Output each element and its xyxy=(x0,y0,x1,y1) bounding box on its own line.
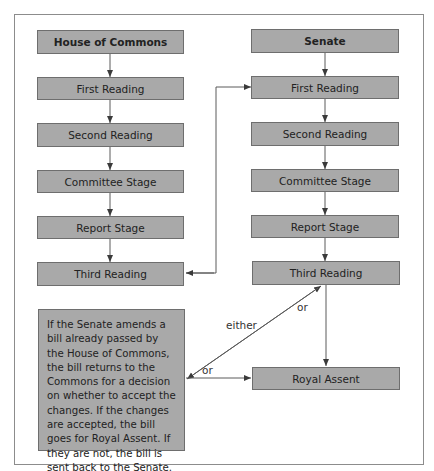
royal-assent-label: Royal Assent xyxy=(292,373,360,385)
senate-third-reading-box: Third Reading xyxy=(252,261,400,285)
commons-third-reading-box: Third Reading xyxy=(37,262,184,286)
commons-report-stage-box: Report Stage xyxy=(37,216,184,239)
amendment-note-text: If the Senate amends a bill already pass… xyxy=(47,319,176,471)
senate-second-reading-label: Second Reading xyxy=(283,128,368,140)
senate-committee-stage-box: Committee Stage xyxy=(251,169,399,192)
commons-third-reading-label: Third Reading xyxy=(74,268,147,280)
commons-committee-stage-label: Committee Stage xyxy=(65,176,157,188)
senate-first-reading-box: First Reading xyxy=(251,76,399,99)
senate-third-reading-label: Third Reading xyxy=(290,267,363,279)
or-upper-label: or xyxy=(297,301,308,313)
commons-first-reading-box: First Reading xyxy=(37,77,184,100)
or-lower-label: or xyxy=(202,364,213,376)
commons-header-label: House of Commons xyxy=(54,36,168,48)
commons-second-reading-label: Second Reading xyxy=(68,129,153,141)
either-label: either xyxy=(226,319,257,331)
senate-header-box: Senate xyxy=(251,29,399,53)
senate-report-stage-label: Report Stage xyxy=(291,221,360,233)
senate-first-reading-label: First Reading xyxy=(291,82,359,94)
amendment-note-box: If the Senate amends a bill already pass… xyxy=(38,309,185,451)
senate-committee-stage-label: Committee Stage xyxy=(279,175,371,187)
senate-header-label: Senate xyxy=(304,35,345,47)
senate-second-reading-box: Second Reading xyxy=(251,122,399,146)
senate-report-stage-box: Report Stage xyxy=(251,215,399,238)
commons-first-reading-label: First Reading xyxy=(76,83,144,95)
commons-report-stage-label: Report Stage xyxy=(76,222,145,234)
royal-assent-box: Royal Assent xyxy=(252,367,400,390)
commons-committee-stage-box: Committee Stage xyxy=(37,170,184,193)
commons-header-box: House of Commons xyxy=(37,30,184,54)
commons-second-reading-box: Second Reading xyxy=(37,123,184,147)
